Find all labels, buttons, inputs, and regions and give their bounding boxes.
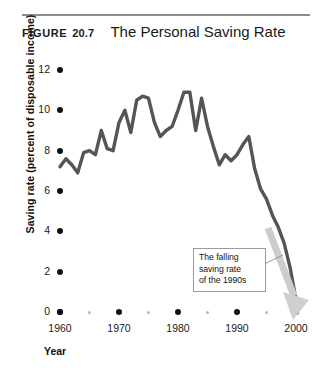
annotation-line-1: The falling: [199, 252, 261, 264]
annotation-line-3: of the 1990s: [199, 275, 261, 287]
annotation-line-2: saving rate: [199, 264, 261, 276]
decline-arrow-icon: [268, 228, 309, 320]
plot-area: [0, 0, 327, 379]
figure-container: FIGURE20.7The Personal Saving Rate Savin…: [0, 0, 327, 379]
annotation-callout: The falling saving rate of the 1990s: [193, 248, 266, 292]
